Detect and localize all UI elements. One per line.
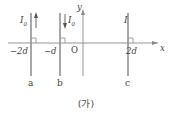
current-arrow-b-down-icon: [63, 14, 67, 29]
wire-label-a: a: [28, 79, 33, 88]
x-tick-label-2d: 2d: [126, 47, 137, 56]
current-label-a: I0: [20, 16, 27, 27]
x-tick-label-minus-2d: −2d: [10, 47, 28, 56]
wire-b: [60, 13, 65, 76]
y-axis: [81, 9, 85, 76]
wire-c: [128, 13, 133, 76]
current-label-b-subscript: 0: [72, 21, 76, 27]
current-arrow-a-up-icon: [34, 12, 38, 28]
x-tick-label-minus-d: −d: [44, 47, 57, 56]
figure-caption: (가): [0, 96, 172, 110]
x-axis-label: x: [160, 44, 165, 53]
current-label-c-symbol: I: [124, 15, 128, 25]
y-axis-label: y: [77, 3, 82, 12]
wire-a: [31, 13, 36, 76]
current-label-c: I: [124, 16, 128, 27]
current-label-b: I0: [68, 16, 75, 27]
origin-label: O: [71, 46, 78, 55]
current-label-a-subscript: 0: [24, 21, 28, 27]
wire-label-c: c: [125, 79, 130, 88]
wire-label-b: b: [57, 79, 63, 88]
